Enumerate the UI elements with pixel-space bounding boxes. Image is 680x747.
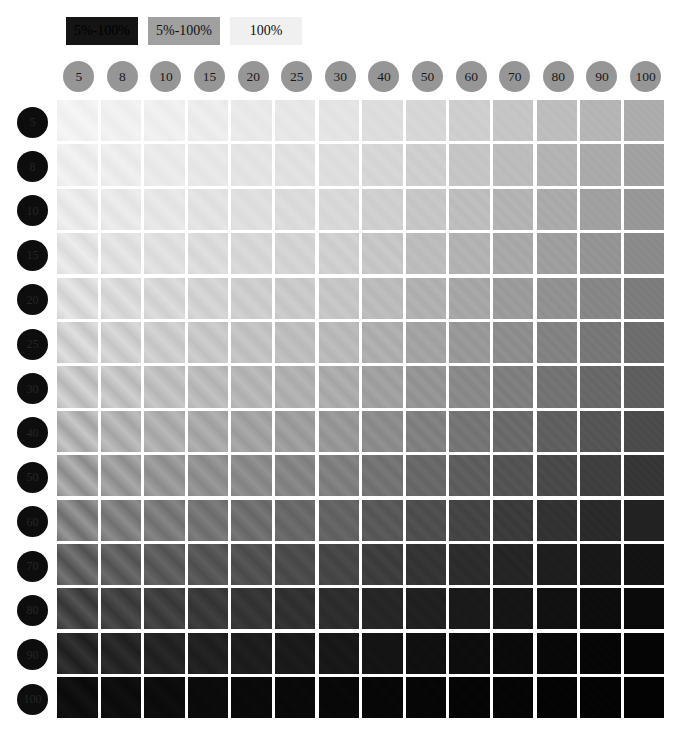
grating-pattern bbox=[580, 233, 621, 274]
grating-pattern bbox=[57, 633, 98, 674]
grating-cell bbox=[275, 144, 316, 185]
grating-pattern bbox=[275, 411, 316, 452]
grating-cell bbox=[101, 500, 142, 541]
column-header-8: 8 bbox=[101, 61, 145, 92]
grating-cell bbox=[449, 411, 490, 452]
grating-pattern bbox=[275, 366, 316, 407]
grating-pattern bbox=[57, 588, 98, 629]
grating-pattern bbox=[101, 144, 142, 185]
row-header-circle: 40 bbox=[17, 417, 48, 448]
grating-cell bbox=[144, 233, 185, 274]
grating-pattern bbox=[144, 233, 185, 274]
grating-cell bbox=[275, 100, 316, 141]
grating-cell bbox=[144, 544, 185, 585]
row-header-circle: 70 bbox=[17, 551, 48, 582]
grating-cell bbox=[319, 233, 360, 274]
row-header-circle: 8 bbox=[17, 151, 48, 182]
column-header-label: 80 bbox=[552, 70, 566, 84]
grating-pattern bbox=[319, 633, 360, 674]
grating-pattern bbox=[580, 322, 621, 363]
grating-pattern bbox=[537, 322, 578, 363]
grating-pattern bbox=[57, 189, 98, 230]
grating-cell bbox=[449, 233, 490, 274]
grating-cell bbox=[537, 366, 578, 407]
grating-cell bbox=[57, 500, 98, 541]
grating-pattern bbox=[231, 588, 272, 629]
grating-cell bbox=[537, 144, 578, 185]
grating-pattern bbox=[406, 500, 447, 541]
column-header-circle: 25 bbox=[281, 61, 312, 92]
grating-cell bbox=[449, 100, 490, 141]
grating-cell bbox=[580, 278, 621, 319]
legend-swatch-label: 100% bbox=[250, 24, 283, 38]
grating-pattern bbox=[231, 100, 272, 141]
column-header-circle: 100 bbox=[630, 61, 661, 92]
grating-cell bbox=[57, 544, 98, 585]
grating-cell bbox=[580, 544, 621, 585]
grating-pattern bbox=[188, 500, 229, 541]
column-header-circle: 20 bbox=[238, 61, 269, 92]
grating-cell bbox=[101, 588, 142, 629]
grating-pattern bbox=[449, 233, 490, 274]
grating-pattern bbox=[537, 455, 578, 496]
grating-pattern bbox=[537, 411, 578, 452]
grating-cell bbox=[537, 633, 578, 674]
grating-pattern bbox=[362, 278, 403, 319]
grating-cell bbox=[449, 455, 490, 496]
grating-cell bbox=[57, 411, 98, 452]
grating-pattern bbox=[231, 677, 272, 718]
grating-cell bbox=[537, 278, 578, 319]
grating-pattern bbox=[449, 100, 490, 141]
legend-swatch-label: 5%-100% bbox=[74, 24, 130, 38]
grating-pattern bbox=[188, 233, 229, 274]
grating-cell bbox=[493, 455, 534, 496]
grating-pattern bbox=[319, 544, 360, 585]
column-header-20: 20 bbox=[231, 61, 275, 92]
grating-pattern bbox=[362, 500, 403, 541]
row-header-circle: 60 bbox=[17, 506, 48, 537]
grating-pattern bbox=[406, 366, 447, 407]
grating-cell bbox=[319, 189, 360, 230]
grating-pattern bbox=[275, 233, 316, 274]
grating-cell bbox=[101, 455, 142, 496]
grating-cell bbox=[188, 677, 229, 718]
column-header-90: 90 bbox=[580, 61, 624, 92]
grating-cell bbox=[449, 189, 490, 230]
grating-pattern bbox=[275, 500, 316, 541]
row-header-circle: 10 bbox=[17, 195, 48, 226]
column-header-label: 25 bbox=[290, 70, 304, 84]
grating-cell bbox=[319, 677, 360, 718]
row-header-circle: 90 bbox=[17, 639, 48, 670]
grating-cell bbox=[580, 322, 621, 363]
grating-pattern bbox=[144, 588, 185, 629]
grating-pattern bbox=[537, 189, 578, 230]
grating-pattern bbox=[319, 100, 360, 141]
grating-cell bbox=[449, 322, 490, 363]
column-header-label: 30 bbox=[334, 70, 348, 84]
grating-pattern bbox=[275, 322, 316, 363]
grating-pattern bbox=[319, 144, 360, 185]
grating-cell bbox=[406, 677, 447, 718]
grating-pattern bbox=[57, 100, 98, 141]
grating-cell bbox=[188, 366, 229, 407]
grating-pattern bbox=[362, 189, 403, 230]
grating-cell bbox=[101, 189, 142, 230]
grating-cell bbox=[144, 278, 185, 319]
grating-pattern bbox=[537, 588, 578, 629]
grating-pattern bbox=[188, 455, 229, 496]
grating-cell bbox=[231, 366, 272, 407]
grating-pattern bbox=[101, 278, 142, 319]
grating-cell bbox=[231, 322, 272, 363]
grating-cell bbox=[493, 544, 534, 585]
grating-cell bbox=[275, 233, 316, 274]
row-header-label: 15 bbox=[27, 249, 39, 261]
grating-pattern bbox=[101, 633, 142, 674]
grating-cell bbox=[101, 100, 142, 141]
grating-cell bbox=[57, 677, 98, 718]
grating-cell bbox=[319, 500, 360, 541]
row-header-circle: 20 bbox=[17, 284, 48, 315]
grating-cell bbox=[362, 588, 403, 629]
grating-pattern bbox=[57, 455, 98, 496]
grating-cell bbox=[144, 455, 185, 496]
grating-pattern bbox=[624, 544, 665, 585]
